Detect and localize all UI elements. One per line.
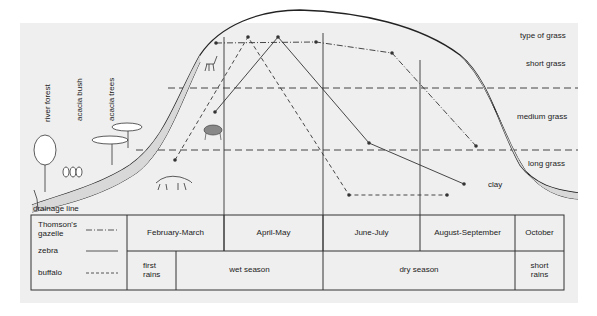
acacia-bush-icon (63, 167, 82, 177)
gazelle-path (216, 42, 476, 146)
acacia-trees-label: acacia trees (107, 78, 116, 121)
buffalo-icon (156, 176, 192, 190)
drainage-line-label: drainage line (33, 204, 79, 213)
legend-gazelle: Thomson's gazelle (38, 221, 77, 239)
short-rains-line-2: rains (531, 271, 548, 280)
zebra-path (215, 37, 464, 184)
season-dry: dry season (323, 251, 515, 290)
river-forest-label: river forest (43, 84, 52, 122)
month-feb-mar: February-March (127, 215, 224, 251)
legend-zebra: zebra (38, 247, 58, 256)
month-oct: October (515, 215, 564, 251)
medium-grass-label: medium grass (517, 112, 567, 121)
soil-band-right (460, 55, 578, 199)
type-of-grass-label: type of grass (520, 31, 566, 40)
acacia-bush-label: acacia bush (75, 78, 84, 121)
season-wet: wet season (176, 251, 323, 290)
long-grass-label: long grass (528, 159, 565, 168)
month-jun-jul: June-July (323, 215, 420, 251)
month-aug-sep: August-September (420, 215, 515, 251)
soil-band-left (32, 55, 200, 212)
first-rains-line-2: rains (143, 271, 160, 280)
short-grass-label: short grass (526, 59, 566, 68)
gazelle-icon (205, 56, 217, 71)
clay-label: clay (488, 180, 502, 189)
acacia-tree-icon (92, 123, 142, 165)
legend-buffalo: buffalo (38, 269, 62, 278)
legend-gazelle-label-2: gazelle (38, 230, 77, 239)
zebra-icon (204, 125, 222, 140)
month-apr-may: April-May (224, 215, 323, 251)
season-short-rains: short rains (515, 251, 564, 290)
buffalo-path (175, 37, 447, 195)
soil-lower-right (465, 60, 578, 199)
path-points (173, 35, 478, 197)
river-forest-tree-icon (34, 135, 56, 192)
season-first-rains: first rains (127, 251, 176, 290)
